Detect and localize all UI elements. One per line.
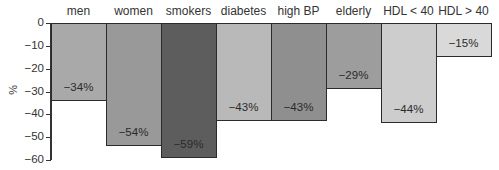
value-label: −34% (51, 81, 106, 93)
value-label: −43% (216, 101, 271, 113)
category-label: women (106, 4, 161, 18)
y-tick-label: −50 (14, 130, 44, 142)
y-tick-label: −60 (14, 153, 44, 165)
y-tick-mark (46, 137, 51, 138)
y-tick-label: 0 (14, 16, 44, 28)
y-tick-mark (46, 114, 51, 115)
y-tick-label: −40 (14, 107, 44, 119)
category-label: high BP (271, 4, 326, 18)
category-label: elderly (326, 4, 381, 18)
y-tick-label: −20 (14, 62, 44, 74)
value-label: −54% (106, 126, 161, 138)
value-label: −29% (326, 69, 381, 81)
y-tick-label: −10 (14, 39, 44, 51)
value-label: −44% (381, 103, 436, 115)
value-label: −15% (436, 37, 491, 49)
y-tick-mark (46, 160, 51, 161)
bar-chart: 0−10−20−30−40−50−60%men−34%women−54%smok… (0, 0, 499, 170)
category-label: diabetes (216, 4, 271, 18)
category-label: smokers (161, 4, 216, 18)
category-label: HDL > 40 (436, 4, 491, 18)
category-label: HDL < 40 (381, 4, 436, 18)
y-axis-label: % (7, 85, 19, 95)
value-label: −59% (161, 138, 216, 150)
value-label: −43% (271, 101, 326, 113)
category-label: men (51, 4, 106, 18)
